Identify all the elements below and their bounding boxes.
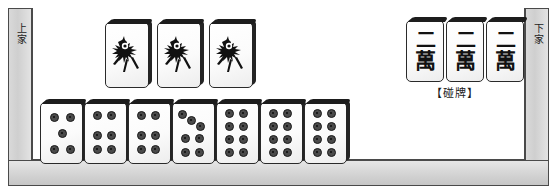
pip xyxy=(283,122,292,131)
pip xyxy=(225,148,234,157)
pip xyxy=(107,131,116,140)
pip xyxy=(181,134,190,143)
right-player-label: 下家 xyxy=(531,23,543,45)
field-top-edge xyxy=(33,7,524,10)
pip xyxy=(181,148,190,157)
sparrow-icon xyxy=(110,35,144,75)
pip xyxy=(313,122,322,131)
hand-tile-pips xyxy=(85,103,126,163)
pip xyxy=(225,109,234,118)
pip xyxy=(327,148,336,157)
pip xyxy=(151,145,160,154)
hand-tile[interactable] xyxy=(84,102,127,164)
hand-tile[interactable] xyxy=(128,102,171,164)
character-tile-suit: 萬 xyxy=(415,51,436,72)
hand-tile[interactable] xyxy=(172,102,215,164)
hand-tile[interactable] xyxy=(260,102,303,164)
pip xyxy=(151,111,160,120)
pip xyxy=(178,110,187,119)
pip xyxy=(283,148,292,157)
pip xyxy=(283,135,292,144)
character-tile[interactable]: 二萬 xyxy=(486,20,524,82)
pip xyxy=(151,131,160,140)
pip xyxy=(196,122,205,131)
sparrow-icon xyxy=(214,35,248,75)
right-player-bar: 下家 xyxy=(525,8,549,178)
pip xyxy=(58,129,67,138)
character-tile-number: 二 xyxy=(496,30,515,50)
pip xyxy=(327,135,336,144)
pip xyxy=(225,135,234,144)
hand-tile-pips xyxy=(261,103,302,163)
pip xyxy=(107,111,116,120)
pip xyxy=(327,109,336,118)
pip xyxy=(93,145,102,154)
character-tile[interactable]: 二萬 xyxy=(406,20,444,82)
hand-tile-pips xyxy=(129,103,170,163)
pip xyxy=(269,122,278,131)
sparrow-icon xyxy=(162,35,196,75)
pung-caption: 【碰牌】 xyxy=(396,84,514,100)
pip xyxy=(313,135,322,144)
hand-tile[interactable] xyxy=(304,102,347,164)
character-tile-suit: 萬 xyxy=(495,51,516,72)
bamboo-tile[interactable] xyxy=(209,22,253,88)
left-player-label: 上家 xyxy=(14,23,26,45)
character-tile[interactable]: 二萬 xyxy=(446,20,484,82)
pip xyxy=(327,122,336,131)
pip xyxy=(93,111,102,120)
character-tile-suit: 萬 xyxy=(455,51,476,72)
bamboo-tile[interactable] xyxy=(157,22,201,88)
pip xyxy=(195,134,204,143)
pip xyxy=(137,131,146,140)
pip xyxy=(269,135,278,144)
pip xyxy=(187,116,196,125)
pip xyxy=(225,122,234,131)
hand-tile[interactable] xyxy=(216,102,259,164)
mahjong-board: 上家 下家 xyxy=(0,0,557,194)
hand-tile-pips xyxy=(305,103,346,163)
pip xyxy=(66,113,75,122)
bamboo-tile[interactable] xyxy=(105,22,149,88)
hand-tile-pips xyxy=(217,103,258,163)
left-player-bar: 上家 xyxy=(8,8,32,178)
pip xyxy=(269,109,278,118)
pip xyxy=(283,109,292,118)
pip xyxy=(50,145,59,154)
character-tile-number: 二 xyxy=(456,30,475,50)
pip xyxy=(137,145,146,154)
pip xyxy=(239,122,248,131)
pip xyxy=(66,145,75,154)
pip xyxy=(50,113,59,122)
pip xyxy=(107,145,116,154)
pip xyxy=(313,148,322,157)
pip xyxy=(93,131,102,140)
hand-tile-pips xyxy=(41,103,82,163)
pip xyxy=(239,148,248,157)
pip xyxy=(137,111,146,120)
pip xyxy=(313,109,322,118)
pip xyxy=(239,135,248,144)
pip xyxy=(239,109,248,118)
pip xyxy=(195,148,204,157)
hand-tile-pips xyxy=(173,103,214,163)
hand-tile[interactable] xyxy=(40,102,83,164)
character-tile-number: 二 xyxy=(416,30,435,50)
pip xyxy=(269,148,278,157)
